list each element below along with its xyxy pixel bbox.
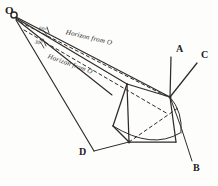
stem-to-a — [170, 57, 171, 97]
upper-horizon-dashed — [20, 22, 166, 96]
edge-left-to-d — [113, 126, 129, 142]
vertex-label-b: B — [193, 163, 200, 173]
curve-lower-sweep — [113, 126, 180, 140]
vertex-label-a: A — [176, 44, 183, 54]
vertex-label-c: C — [201, 50, 208, 60]
solid-body — [113, 84, 192, 161]
vertex-dot-front — [128, 141, 131, 144]
edge-upper-left — [113, 84, 127, 126]
label-stems — [94, 57, 197, 151]
vertex-label-d: D — [79, 147, 86, 157]
perspective-diagram: A C B D O Horizon from O Horizon from O … — [0, 0, 218, 186]
upper-angle-tick — [47, 27, 49, 33]
stem-to-d — [94, 142, 129, 151]
vertex-dot-ac — [169, 96, 172, 99]
stem-to-c — [170, 63, 197, 97]
diagram-canvas — [0, 0, 218, 186]
station-point-label: O — [5, 5, 14, 16]
